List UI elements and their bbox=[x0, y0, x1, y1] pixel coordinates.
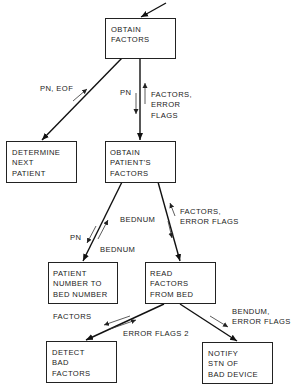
flow-label-bednum: BEDNUM bbox=[100, 245, 135, 255]
flow-arrow-bednum-up bbox=[98, 220, 108, 239]
flow-label-line: ERROR bbox=[151, 100, 192, 110]
module-label-line: FACTORS bbox=[110, 169, 175, 179]
module-detect-bad-factors: DETECT BAD FACTORS bbox=[46, 341, 117, 383]
module-label-line: FACTORS bbox=[52, 369, 116, 379]
flow-label-line: ERROR FLAGS bbox=[232, 317, 291, 327]
module-obtain-factors: OBTAIN FACTORS bbox=[105, 18, 176, 59]
module-label-line: PATIENT bbox=[12, 169, 76, 179]
module-label-line: STN OF bbox=[208, 359, 272, 369]
flow-arrow-factors-error-up bbox=[170, 203, 175, 216]
module-notify-stn-of-bad-device: NOTIFY STN OF BAD DEVICE bbox=[202, 342, 273, 384]
flow-label-bendum-error-flags: BENDUM, ERROR FLAGS bbox=[232, 307, 291, 328]
flow-label-pn: PN bbox=[120, 88, 131, 98]
module-read-factors-from-bed: READ FACTORS FROM BED bbox=[145, 262, 216, 304]
module-label-line: PATIENT'S bbox=[110, 158, 175, 168]
module-label-line: NEXT bbox=[12, 158, 76, 168]
module-label-line: FACTORS bbox=[111, 35, 175, 45]
module-label-line: OBTAIN bbox=[111, 25, 175, 35]
module-label-line: BAD DEVICE bbox=[208, 370, 272, 380]
flow-label-factors-error-flags-2: FACTORS, ERROR FLAGS bbox=[180, 207, 239, 228]
flow-label-factors: FACTORS bbox=[53, 312, 92, 322]
entry-call-arrow bbox=[141, 3, 166, 17]
module-determine-next-patient: DETERMINE NEXT PATIENT bbox=[6, 141, 77, 183]
module-label-line: BAD bbox=[52, 358, 116, 368]
flow-label-pn-to-bednum: PN bbox=[70, 233, 81, 243]
flow-arrow-pn-eof bbox=[73, 89, 87, 101]
flow-label-factors-error-flags: FACTORS, ERROR FLAGS bbox=[151, 90, 192, 121]
module-patient-number-to-bed-number: PATIENT NUMBER TO BED NUMBER bbox=[48, 262, 118, 304]
module-obtain-patients-factors: OBTAIN PATIENT'S FACTORS bbox=[105, 141, 176, 183]
flow-label-error-flags-2: ERROR FLAGS 2 bbox=[123, 329, 189, 339]
module-label-line: READ bbox=[150, 269, 215, 279]
flow-arrow-pn-left bbox=[87, 226, 96, 243]
module-label-line: PATIENT bbox=[53, 269, 117, 279]
flow-label-line: FLAGS bbox=[151, 111, 192, 121]
flow-label-line: ERROR FLAGS bbox=[180, 217, 239, 227]
module-label-line: FROM BED bbox=[150, 290, 215, 300]
module-label-line: DETECT bbox=[52, 348, 116, 358]
flow-label-line: FACTORS, bbox=[180, 207, 239, 217]
module-label-line: BED NUMBER bbox=[53, 290, 117, 300]
module-label-line: FACTORS bbox=[150, 279, 215, 289]
flow-label-line: BENDUM, bbox=[232, 307, 291, 317]
module-label-line: NOTIFY bbox=[208, 349, 272, 359]
module-label-line: OBTAIN bbox=[110, 148, 175, 158]
call-arrow-determine-next-patient bbox=[42, 58, 122, 140]
call-arrow-read-factors-from-bed bbox=[158, 182, 180, 261]
module-label-line: DETERMINE bbox=[12, 148, 76, 158]
flow-label-line: FACTORS, bbox=[151, 90, 192, 100]
flow-label-pn-eof: PN, EOF bbox=[40, 84, 73, 94]
flow-label-bednum-right: BEDNUM bbox=[120, 215, 155, 225]
module-label-line: NUMBER TO bbox=[53, 279, 117, 289]
